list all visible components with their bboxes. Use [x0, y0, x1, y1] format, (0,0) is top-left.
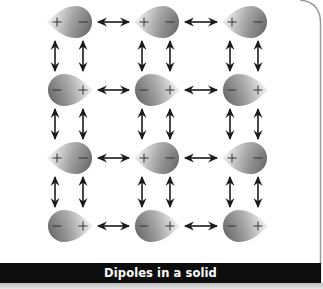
- dipole: [48, 210, 93, 242]
- dipole: [222, 6, 267, 38]
- dipole: [134, 142, 179, 174]
- arrow-group: [55, 22, 258, 226]
- dipole: [134, 6, 179, 38]
- dipole-group: [47, 6, 268, 242]
- caption-text: Dipoles in a solid: [104, 266, 217, 280]
- dipole: [223, 210, 268, 242]
- dipole: [47, 142, 92, 174]
- dipole: [135, 74, 180, 106]
- dipole: [223, 74, 268, 106]
- dipole: [135, 210, 180, 242]
- caption-bar: Dipoles in a solid: [0, 263, 321, 283]
- frame-border: [300, 0, 321, 283]
- dipole: [48, 74, 93, 106]
- bottom-band: [0, 283, 323, 289]
- dipole: [222, 142, 267, 174]
- dipole-lattice-diagram: [0, 0, 323, 289]
- dipole: [47, 6, 92, 38]
